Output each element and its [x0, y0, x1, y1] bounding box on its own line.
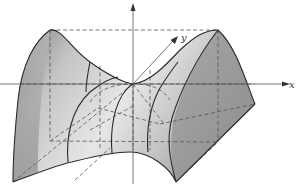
z-axis-arrowhead-icon — [131, 3, 136, 11]
x-axis-label: x — [289, 79, 295, 90]
saddle-surface-diagram: x y — [0, 0, 297, 188]
y-axis-label: y — [180, 32, 187, 43]
